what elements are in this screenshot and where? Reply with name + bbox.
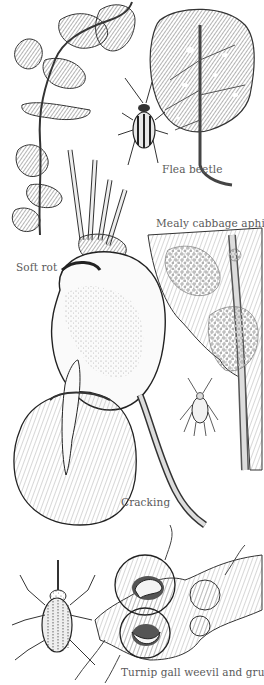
holed-leaf xyxy=(150,9,254,185)
label-mealy-cabbage-aphid: Mealy cabbage aphid xyxy=(156,218,264,229)
aphid xyxy=(180,378,218,436)
damaged-leaf-stalk xyxy=(12,2,135,235)
illustration-drawing xyxy=(0,0,264,685)
aphid-colony-leaf xyxy=(148,228,262,470)
label-turnip-gall-weevil: Turnip gall weevil and grubs xyxy=(121,667,264,678)
pest-disease-illustration: Flea beetle Mealy cabbage aphid Soft rot… xyxy=(0,0,264,685)
label-soft-rot: Soft rot xyxy=(16,262,57,273)
label-flea-beetle: Flea beetle xyxy=(162,164,223,175)
galled-root-with-grubs xyxy=(75,525,262,683)
turnip-gall-weevil xyxy=(12,560,95,665)
label-cracking: Cracking xyxy=(121,497,170,508)
